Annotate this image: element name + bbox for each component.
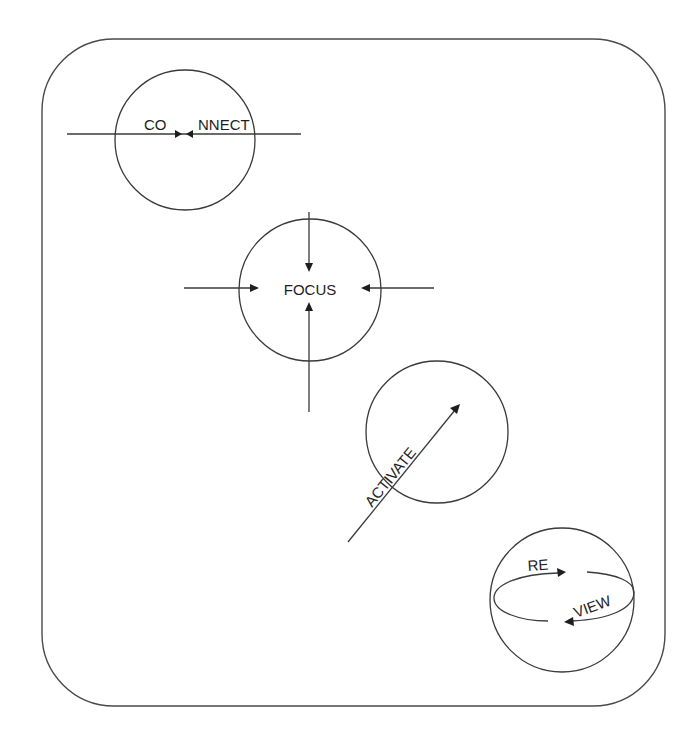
arrow-right-icon xyxy=(175,130,182,138)
review-circle xyxy=(490,528,634,672)
arrow-left-icon xyxy=(564,617,574,626)
connect-label-right: NNECT xyxy=(198,116,250,133)
focus-node: FOCUS xyxy=(184,212,434,412)
review-label-top: RE xyxy=(527,556,549,574)
focus-label: FOCUS xyxy=(284,281,337,298)
arrow-left-icon xyxy=(361,284,370,292)
connect-circle xyxy=(115,70,255,210)
review-label-bottom: VIEW xyxy=(571,591,614,620)
arrow-up-icon xyxy=(305,302,313,311)
diagram-canvas: CO NNECT FOCUS ACTIVATE RE VIEW xyxy=(0,0,698,742)
review-node: RE VIEW xyxy=(490,528,634,672)
connect-node: CO NNECT xyxy=(67,70,301,210)
activate-node: ACTIVATE xyxy=(348,361,508,542)
arrow-left-icon xyxy=(186,130,193,138)
arrow-up-right-icon xyxy=(450,404,460,414)
arrow-down-icon xyxy=(305,263,313,272)
connect-label-left: CO xyxy=(144,116,167,133)
arrow-right-icon xyxy=(557,568,566,577)
arrow-right-icon xyxy=(250,284,259,292)
review-loop-left xyxy=(494,573,558,621)
